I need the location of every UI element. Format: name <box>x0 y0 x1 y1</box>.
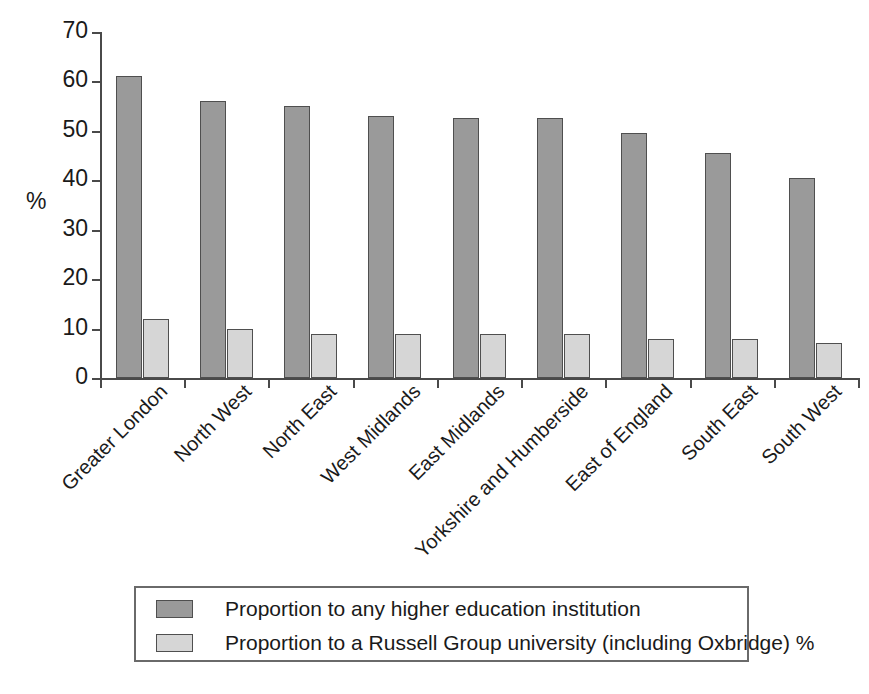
y-tick-label: 20 <box>62 266 88 289</box>
legend-entry-label: Proportion to any higher education insti… <box>225 597 641 621</box>
bar <box>284 106 310 378</box>
legend-entry-russell-group: Proportion to a Russell Group university… <box>156 628 814 658</box>
y-tick-label: 50 <box>62 118 88 141</box>
legend-swatch-icon <box>156 634 193 652</box>
bar <box>816 343 842 378</box>
bar <box>564 334 590 378</box>
y-tick-label: 60 <box>62 68 88 91</box>
legend-entry-label: Proportion to a Russell Group university… <box>225 631 814 655</box>
x-axis-label: North West <box>170 380 256 466</box>
bar <box>732 339 758 378</box>
bar <box>480 334 506 378</box>
bar <box>453 118 479 378</box>
y-tick-label: 70 <box>62 19 88 42</box>
y-tick-label: 30 <box>62 217 88 240</box>
bar <box>648 339 674 378</box>
bar <box>200 101 226 378</box>
x-axis-labels: Greater LondonNorth WestNorth EastWest M… <box>100 380 860 580</box>
bar <box>537 118 563 378</box>
bar <box>116 76 142 378</box>
y-axis-title: % <box>26 190 46 213</box>
y-tick-label: 40 <box>62 167 88 190</box>
bar-chart: % 010203040506070 Greater LondonNorth We… <box>0 0 869 694</box>
bar <box>705 153 731 378</box>
chart-legend: Proportion to any higher education insti… <box>134 586 749 662</box>
x-axis-label: North East <box>258 380 340 462</box>
legend-swatch-icon <box>156 600 193 618</box>
bars-layer <box>100 32 858 378</box>
x-axis-label: South West <box>757 380 845 468</box>
x-axis-label: Greater London <box>57 380 172 495</box>
x-axis-label: South East <box>677 380 762 465</box>
legend-entry-any-he: Proportion to any higher education insti… <box>156 594 641 624</box>
bar <box>621 133 647 378</box>
bar <box>311 334 337 378</box>
y-tick-label: 10 <box>62 316 88 339</box>
bar <box>395 334 421 378</box>
bar <box>368 116 394 378</box>
x-axis-label: Yorkshire and Humberside <box>411 380 593 562</box>
bar <box>227 329 253 378</box>
y-tick-label: 0 <box>75 365 88 388</box>
bar <box>143 319 169 378</box>
bar <box>789 178 815 378</box>
plot-area: 010203040506070 <box>100 32 860 378</box>
